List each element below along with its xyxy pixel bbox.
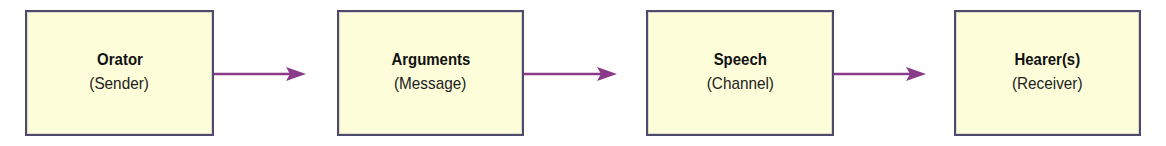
arrow-icon: [834, 66, 926, 82]
node-title: Hearer(s): [1015, 49, 1081, 71]
node-subtitle: (Channel): [706, 71, 773, 97]
node-subtitle: (Sender): [90, 71, 150, 97]
arrow-icon: [214, 66, 306, 82]
node-orator: Orator (Sender): [25, 10, 214, 136]
node-hearers: Hearer(s) (Receiver): [954, 10, 1141, 136]
node-arguments: Arguments (Message): [337, 10, 524, 136]
node-speech: Speech (Channel): [646, 10, 834, 136]
arrow-icon: [524, 66, 617, 82]
node-subtitle: (Receiver): [1012, 71, 1083, 97]
node-title: Orator: [97, 49, 143, 71]
node-title: Speech: [713, 49, 766, 71]
node-subtitle: (Message): [394, 71, 466, 97]
node-title: Arguments: [391, 49, 470, 71]
